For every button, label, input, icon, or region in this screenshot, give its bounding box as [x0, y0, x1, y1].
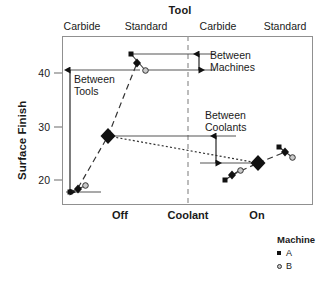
tool-column-label-4: Standard	[243, 20, 327, 32]
annotation-between-machines-line2: Machines	[210, 62, 255, 74]
filled-square-marker-icon	[277, 251, 281, 255]
interaction-plot-figure: Tool Carbide Standard Carbide Standard S…	[0, 0, 335, 281]
annotation-between-tools-line2: Tools	[74, 86, 115, 98]
coolant-group-label-off: Off	[85, 209, 155, 221]
annotation-between-tools-line1: Between	[74, 74, 115, 86]
y-tick-label-40: 40	[24, 67, 50, 79]
legend: Machine A B	[277, 234, 315, 271]
annotation-between-coolants-line1: Between	[205, 110, 246, 122]
legend-label-b: B	[286, 261, 292, 271]
annotation-between-coolants: Between Coolants	[205, 110, 246, 133]
legend-title: Machine	[277, 234, 315, 245]
tool-title: Tool	[120, 4, 240, 16]
annotation-between-tools: Between Tools	[74, 74, 115, 97]
annotation-between-machines: Between Machines	[210, 50, 255, 73]
annotation-between-coolants-line2: Coolants	[205, 122, 246, 134]
tool-column-label-2: Standard	[104, 20, 188, 32]
plot-area	[62, 36, 313, 205]
y-axis-title: Surface Finish	[16, 101, 28, 180]
y-tick-label-20: 20	[24, 174, 50, 186]
annotation-between-machines-line1: Between	[210, 50, 255, 62]
legend-label-a: A	[286, 248, 292, 258]
y-tick-label-30: 30	[24, 121, 50, 133]
x-axis-title: Coolant	[151, 209, 225, 221]
y-axis-ticks	[54, 73, 62, 180]
coolant-group-label-on: On	[222, 209, 292, 221]
legend-item-a: A	[277, 248, 315, 258]
legend-item-b: B	[277, 261, 315, 271]
open-circle-marker-icon	[277, 264, 282, 269]
